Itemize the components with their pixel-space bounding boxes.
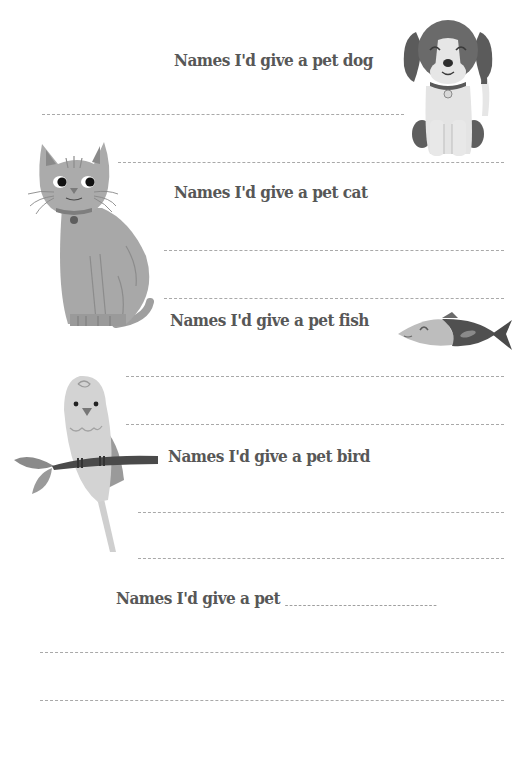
pet-type-blank[interactable] <box>285 605 436 606</box>
writing-line-dog-2[interactable] <box>118 162 504 163</box>
writing-line-dog-1[interactable] <box>42 114 404 115</box>
writing-line-custom-1[interactable] <box>40 652 504 653</box>
writing-line-fish-2[interactable] <box>126 424 504 425</box>
fish-illustration <box>396 310 514 356</box>
worksheet-page: Names I'd give a pet dog <box>0 0 517 769</box>
heading-dog: Names I'd give a pet dog <box>174 50 373 70</box>
writing-line-bird-1[interactable] <box>138 512 504 513</box>
heading-cat: Names I'd give a pet cat <box>174 182 368 202</box>
parrot-illustration <box>12 370 162 554</box>
heading-bird: Names I'd give a pet bird <box>168 446 370 466</box>
heading-custom-pet: Names I'd give a pet <box>116 588 437 608</box>
writing-line-custom-2[interactable] <box>40 700 504 701</box>
dog-illustration <box>400 16 495 162</box>
cat-illustration <box>26 136 156 330</box>
writing-line-bird-2[interactable] <box>138 558 504 559</box>
writing-line-cat-2[interactable] <box>164 298 504 299</box>
heading-custom-pet-text: Names I'd give a pet <box>116 588 280 608</box>
writing-line-fish-1[interactable] <box>126 376 504 377</box>
heading-fish: Names I'd give a pet fish <box>170 310 369 330</box>
writing-line-cat-1[interactable] <box>164 250 504 251</box>
